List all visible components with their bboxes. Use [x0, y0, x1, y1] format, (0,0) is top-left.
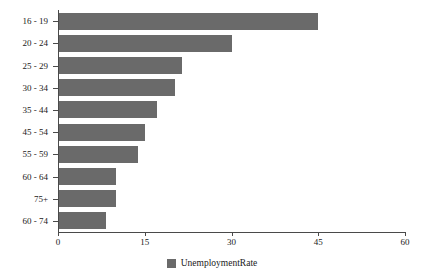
y-axis-line — [58, 10, 59, 232]
legend-swatch-unemploymentrate — [167, 259, 176, 268]
x-axis-tick-label: 0 — [56, 237, 61, 248]
bar — [58, 168, 116, 185]
bar — [58, 101, 157, 118]
x-axis-tick — [58, 232, 59, 236]
y-axis-tick-label: 60 - 64 — [23, 171, 49, 182]
y-axis-tick — [53, 110, 58, 111]
bar — [58, 212, 106, 229]
y-axis-tick-label: 25 - 29 — [23, 60, 49, 71]
bars-layer — [58, 10, 405, 232]
x-axis-tick — [405, 232, 406, 236]
y-axis-tick — [53, 21, 58, 22]
x-axis-tick-label: 15 — [140, 237, 149, 248]
x-axis-tick — [318, 232, 319, 236]
x-axis-tick — [232, 232, 233, 236]
y-axis-tick — [53, 66, 58, 67]
y-axis-tick-label: 55 - 59 — [23, 149, 49, 160]
bar — [58, 124, 145, 141]
y-axis-tick-label: 75+ — [34, 193, 48, 204]
y-axis-tick — [53, 154, 58, 155]
bar — [58, 35, 232, 52]
bar — [58, 190, 116, 207]
chart-legend: UnemploymentRate — [0, 258, 424, 269]
bar — [58, 146, 138, 163]
plot-area — [58, 10, 405, 232]
bar — [58, 13, 318, 30]
y-axis-tick — [53, 88, 58, 89]
y-axis-tick — [53, 199, 58, 200]
legend-label-unemploymentrate: UnemploymentRate — [181, 258, 258, 269]
y-axis-tick-label: 35 - 44 — [23, 104, 49, 115]
x-axis-tick-label: 45 — [314, 237, 323, 248]
x-axis-tick-label: 30 — [227, 237, 236, 248]
y-axis-tick — [53, 132, 58, 133]
y-axis-tick-label: 45 - 54 — [23, 127, 49, 138]
bar — [58, 79, 175, 96]
bar-chart: 16 - 1920 - 2425 - 2930 - 3435 - 4445 - … — [0, 0, 424, 280]
bar — [58, 57, 182, 74]
y-axis-tick-label: 20 - 24 — [23, 38, 49, 49]
y-axis-tick-label: 16 - 19 — [23, 16, 49, 27]
y-axis-tick — [53, 177, 58, 178]
y-axis-tick-label: 30 - 34 — [23, 82, 49, 93]
x-axis-tick-label: 60 — [401, 237, 410, 248]
y-axis-tick — [53, 43, 58, 44]
y-axis-tick-label: 60 - 74 — [23, 215, 49, 226]
y-axis-tick — [53, 221, 58, 222]
x-axis-tick — [145, 232, 146, 236]
